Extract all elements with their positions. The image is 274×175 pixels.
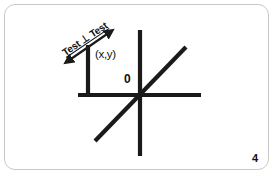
origin-label: 0 [124, 73, 131, 85]
page-number: 4 [252, 153, 258, 164]
slide-canvas: Test ⊥ Test (x,y) 0 4 [0, 0, 274, 175]
coordinate-axes-diagram [0, 0, 274, 175]
point-coordinate-label: (x,y) [95, 49, 116, 61]
